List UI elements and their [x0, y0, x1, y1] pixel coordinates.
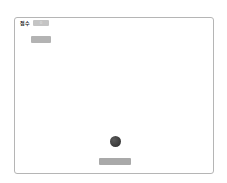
score-value: 0: [33, 20, 49, 26]
paddle[interactable]: [99, 158, 131, 165]
start-button[interactable]: [31, 36, 51, 43]
ball: [110, 136, 121, 147]
game-canvas[interactable]: 점수 0: [14, 17, 214, 174]
score-display: 점수 0: [20, 20, 49, 26]
score-label: 점수: [20, 20, 30, 26]
